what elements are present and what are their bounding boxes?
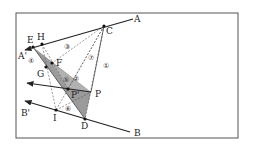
point-H (40, 42, 43, 45)
point-G (44, 65, 47, 68)
label-H: H (37, 32, 45, 42)
region-label-3: ③ (64, 43, 70, 51)
label-E: E (27, 35, 34, 45)
point-P_prime (66, 87, 69, 90)
region-label-7: ⑦ (88, 54, 94, 62)
label-B: B (134, 128, 141, 138)
label-D: D (81, 121, 88, 131)
point-E (31, 45, 34, 48)
region-label-2: ② (73, 75, 79, 83)
label-F: F (56, 58, 62, 68)
region-label-4: ④ (28, 57, 34, 65)
region-label-6: ⑥ (65, 105, 71, 113)
label-P: P (95, 89, 101, 99)
label-I: I (53, 113, 57, 123)
point-I (54, 108, 57, 111)
frame (16, 13, 238, 138)
label-G: G (37, 69, 44, 79)
label-A: A (133, 14, 141, 24)
label-C: C (106, 26, 113, 36)
point-labels: AA'CHEFGPP'IDBB' (17, 14, 141, 138)
label-A_prime: A' (17, 51, 27, 61)
geometry-diagram: AA'CHEFGPP'IDBB' ①②③④⑤⑥⑦ (0, 0, 253, 147)
point-F (50, 61, 53, 64)
label-B_prime: B' (21, 108, 30, 118)
region-label-1: ① (103, 62, 109, 70)
region-label-5: ⑤ (63, 76, 69, 84)
label-P_prime: P' (71, 90, 80, 100)
